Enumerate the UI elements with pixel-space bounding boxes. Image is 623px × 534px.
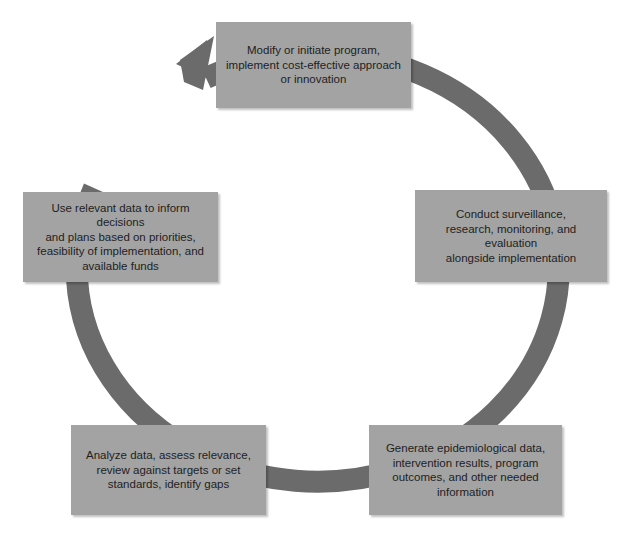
step-text-line: feasibility of implementation, and [33,244,208,259]
step-text-line: Conduct surveillance, [425,207,597,222]
step-box-conduct: Conduct surveillance, research, monitori… [415,190,607,282]
step-box-use: Use relevant data to inform decisions an… [23,192,218,282]
step-text-line: intervention results, program [386,456,545,471]
step-text-line: implement cost-effective approach [226,58,401,73]
step-text-line: research, monitoring, and evaluation [425,222,597,251]
step-text-line: Generate epidemiological data, [386,441,545,456]
step-text-line: information [386,485,545,500]
step-text-line: Modify or initiate program, [226,43,401,58]
step-text-line: Analyze data, assess relevance, [86,448,251,463]
step-text-line: review against targets or set [86,463,251,478]
step-text-line: available funds [33,259,208,274]
step-text-line: or innovation [226,72,401,87]
step-box-generate: Generate epidemiological data, intervent… [369,425,562,515]
step-text-line: Use relevant data to inform decisions [33,201,208,230]
step-text-line: standards, identify gaps [86,477,251,492]
step-box-analyze: Analyze data, assess relevance, review a… [71,425,266,515]
step-text-line: alongside implementation [425,251,597,266]
step-text-line: and plans based on priorities, [33,230,208,245]
step-text-line: outcomes, and other needed [386,470,545,485]
step-box-modify: Modify or initiate program, implement co… [216,22,411,108]
